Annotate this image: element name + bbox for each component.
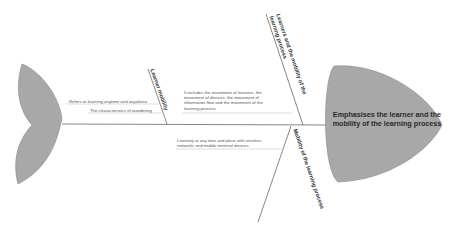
bone-mobility-learning-process (258, 126, 291, 222)
cause-line: information flow and the movement of the (184, 100, 263, 105)
cause-text: Learning at any time and place with wire… (177, 138, 261, 148)
cause-line: networks and mobile terminal devices (177, 143, 261, 148)
spine-line (62, 124, 326, 125)
cause-text: The characteristics of wandering (90, 108, 152, 113)
cause-text: It includes the movement of learners, th… (184, 90, 263, 111)
cause-text: Refers to learning anytime and anywhere (69, 99, 147, 104)
cause-line: learning process (184, 106, 263, 111)
fish-tail (16, 64, 62, 184)
head-label: Emphasises the learner and the mobility … (332, 110, 442, 128)
